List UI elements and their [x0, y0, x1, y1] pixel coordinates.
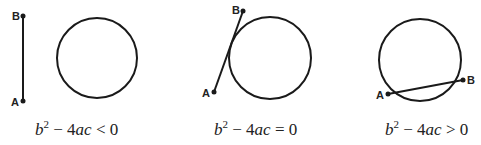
point-b-dot [461, 78, 466, 83]
panel-tangent: B A b2 − 4ac = 0 [202, 4, 311, 139]
point-a-dot [386, 92, 391, 97]
point-b-label: B [467, 74, 475, 86]
point-b-dot [21, 14, 26, 19]
panel-secant: A B b2 − 4ac > 0 [376, 19, 475, 139]
point-b-dot [241, 9, 246, 14]
point-b-label: B [12, 10, 20, 22]
segment-ab [214, 11, 243, 92]
panel-no-intersection: B A b2 − 4ac < 0 [11, 10, 137, 139]
discriminant-diagram: B A b2 − 4ac < 0 B A b2 − 4ac = 0 A B b2… [0, 0, 481, 145]
point-a-label: A [11, 96, 19, 108]
point-a-label: A [202, 87, 210, 99]
circle [57, 18, 137, 98]
equation-greater-than: b2 − 4ac > 0 [385, 118, 468, 139]
circle [229, 17, 311, 99]
point-a-dot [212, 90, 217, 95]
point-a-label: A [376, 89, 384, 101]
point-b-label: B [232, 4, 240, 16]
point-a-dot [21, 99, 26, 104]
equation-less-than: b2 − 4ac < 0 [35, 118, 118, 139]
equation-equal: b2 − 4ac = 0 [214, 118, 297, 139]
